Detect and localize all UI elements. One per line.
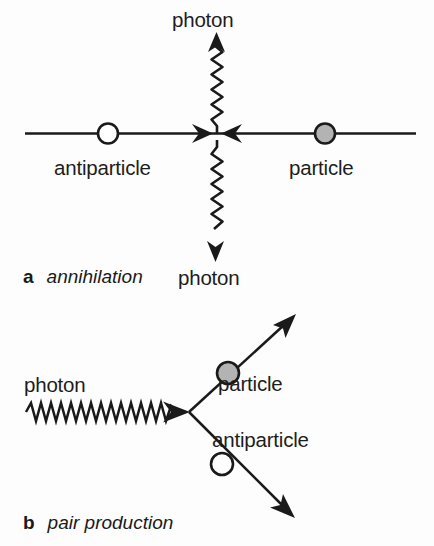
photon-up-arrowhead <box>208 32 225 52</box>
physics-figure: photon antiparticle particle photon aann… <box>0 0 434 546</box>
antiparticle-node-b <box>211 453 233 475</box>
photon-wave-up <box>212 45 223 133</box>
photon-down-arrowhead <box>207 241 224 262</box>
antiparticle-branch-line <box>189 412 283 506</box>
label-photon-bottom: photon <box>178 268 240 289</box>
particle-node-a <box>315 124 335 144</box>
diagram-b-group <box>26 314 296 518</box>
label-photon-b: photon <box>24 375 86 396</box>
label-antiparticle-b: antiparticle <box>212 430 309 451</box>
photon-wave-incoming <box>26 403 176 421</box>
diagram-a-group <box>25 32 416 262</box>
caption-a-text: annihilation <box>47 266 143 287</box>
caption-a-key: a <box>23 266 34 287</box>
caption-b-key: b <box>23 512 35 533</box>
caption-a: aannihilation <box>23 267 143 286</box>
label-particle-b: particle <box>218 374 283 395</box>
particle-branch-arrowhead <box>273 314 296 338</box>
photon-wave-down <box>212 140 223 229</box>
label-photon-top: photon <box>172 10 234 31</box>
caption-b-text: pair production <box>48 512 174 533</box>
label-antiparticle-a: antiparticle <box>54 158 151 179</box>
photon-incoming-arrowhead <box>163 402 190 423</box>
label-particle-a: particle <box>289 158 354 179</box>
caption-b: bpair production <box>23 513 173 532</box>
antiparticle-node-a <box>98 124 118 144</box>
